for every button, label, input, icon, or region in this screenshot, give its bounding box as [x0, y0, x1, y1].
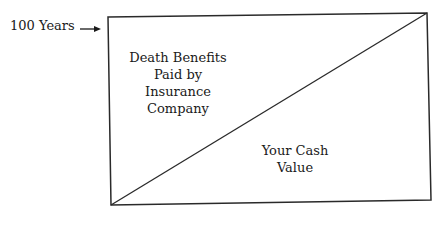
- right-arrow-icon: [80, 26, 101, 32]
- cash-value-label: Your Cash Value: [245, 142, 345, 176]
- death-benefits-line-3: Insurance: [122, 83, 234, 100]
- death-benefits-line-1: Death Benefits: [122, 49, 234, 66]
- cash-value-line-1: Your Cash: [245, 142, 345, 159]
- death-benefits-line-2: Paid by: [122, 66, 234, 83]
- years-marker-label: 100 Years: [10, 17, 75, 34]
- death-benefits-line-4: Company: [122, 100, 234, 117]
- cash-value-line-2: Value: [245, 159, 345, 176]
- death-benefits-label: Death Benefits Paid by Insurance Company: [122, 49, 234, 117]
